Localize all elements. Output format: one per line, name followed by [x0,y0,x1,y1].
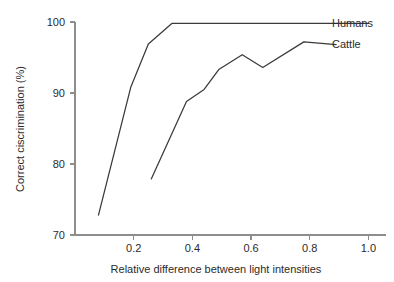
series-label-humans: Humans [332,17,373,29]
chart-axes [75,22,386,235]
y-tick-label: 80 [53,158,65,170]
x-tick-label: 1.0 [361,242,376,254]
series-line-humans [98,23,368,215]
series-lines [98,23,368,215]
x-tick-label: 0.4 [185,242,200,254]
y-tick-label: 100 [47,16,65,28]
x-tick-label: 0.2 [126,242,141,254]
x-axis-title: Relative difference between light intens… [111,263,322,275]
x-tick-label: 0.8 [302,242,317,254]
series-label-cattle: Cattle [332,38,361,50]
series-line-cattle [151,42,336,179]
tick-labels: 7080901000.20.40.60.81.0 [47,16,376,254]
line-chart: 7080901000.20.40.60.81.0 Humans Cattle R… [0,0,394,282]
chart-figure: 7080901000.20.40.60.81.0 Humans Cattle R… [0,0,394,282]
y-tick-label: 70 [53,229,65,241]
x-tick-label: 0.6 [243,242,258,254]
y-axis-title: Correct ciscrimination (%) [14,66,26,192]
y-tick-label: 90 [53,87,65,99]
tick-marks [70,22,368,240]
